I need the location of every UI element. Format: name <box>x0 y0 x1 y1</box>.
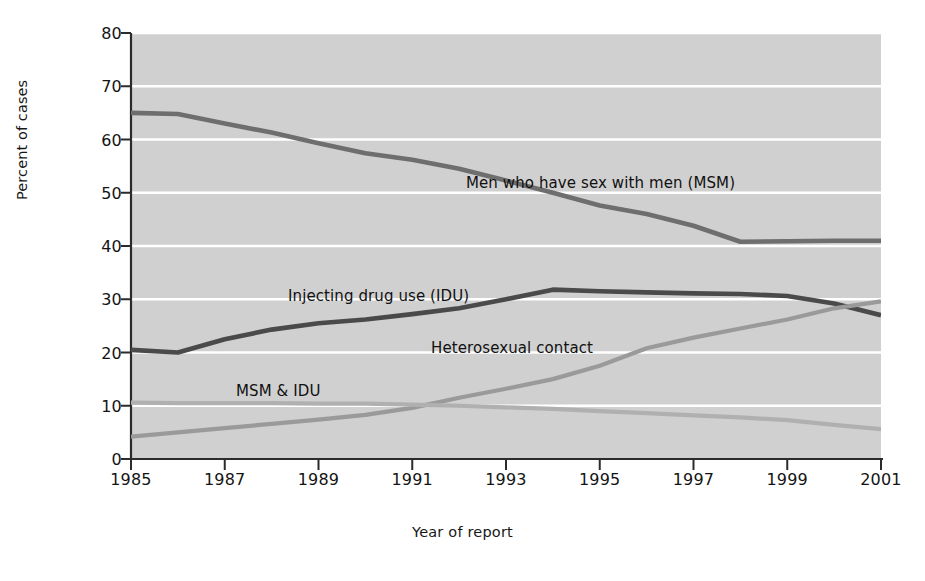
series-annotation-label: Men who have sex with men (MSM) <box>466 174 735 192</box>
series-annotation-label: Injecting drug use (IDU) <box>288 287 469 305</box>
series-annotation-label: MSM & IDU <box>236 382 321 400</box>
chart-figure: Percent of cases Year of report 01020304… <box>0 0 925 581</box>
series-annotation-label: Heterosexual contact <box>431 339 593 357</box>
